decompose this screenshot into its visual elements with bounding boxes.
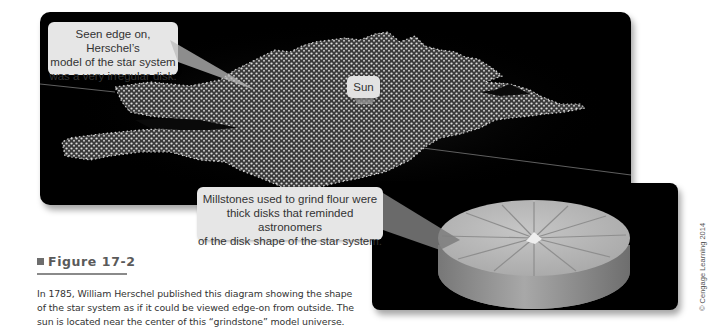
callout-line: of the disk shape of the star system. xyxy=(197,234,383,248)
figure-title: Figure 17-2 xyxy=(37,254,136,269)
caption-line: In 1785, William Herschel published this… xyxy=(37,287,357,301)
caption-line: sun is located near the center of this “… xyxy=(37,315,357,329)
callout-line: Seen edge on, Herschel’s xyxy=(48,27,178,55)
sun-label: Sun xyxy=(347,76,380,98)
callout-line: thick disks that reminded astronomers xyxy=(197,206,383,234)
millstone-callout: Millstones used to grind flour were thic… xyxy=(197,187,383,240)
callout-line: model of the star system xyxy=(48,55,178,69)
callout-line: Millstones used to grind flour were xyxy=(197,192,383,206)
figure-label: Figure 17-2 xyxy=(48,254,136,269)
figure-caption: In 1785, William Herschel published this… xyxy=(37,287,357,329)
irregular-disk-callout: Seen edge on, Herschel’s model of the st… xyxy=(48,22,178,75)
callout-line: was a very irregular disk. xyxy=(48,69,178,83)
millstone-panel xyxy=(372,183,678,310)
square-bullet-icon xyxy=(37,258,44,265)
copyright-credit: © Cengage Learning 2014 xyxy=(698,231,708,311)
caption-line: of the star system as if it could be vie… xyxy=(37,301,357,315)
figure-title-underline xyxy=(37,273,127,275)
millstone-illustration xyxy=(372,183,678,310)
